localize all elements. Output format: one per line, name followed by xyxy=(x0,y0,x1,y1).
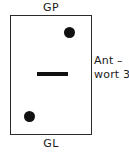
schematic-figure: GP GL Ant – wort 3 xyxy=(0,0,129,156)
contact-dot-top-right xyxy=(64,27,75,38)
top-terminal-label: GP xyxy=(10,1,92,14)
answer-annotation: Ant – wort 3 xyxy=(94,54,129,82)
contact-dot-bottom-left xyxy=(24,111,35,122)
bottom-terminal-label: GL xyxy=(10,137,92,150)
answer-annotation-line-2: wort 3 xyxy=(94,68,129,82)
center-contact-bar xyxy=(37,72,68,76)
answer-annotation-line-1: Ant – xyxy=(94,54,129,68)
